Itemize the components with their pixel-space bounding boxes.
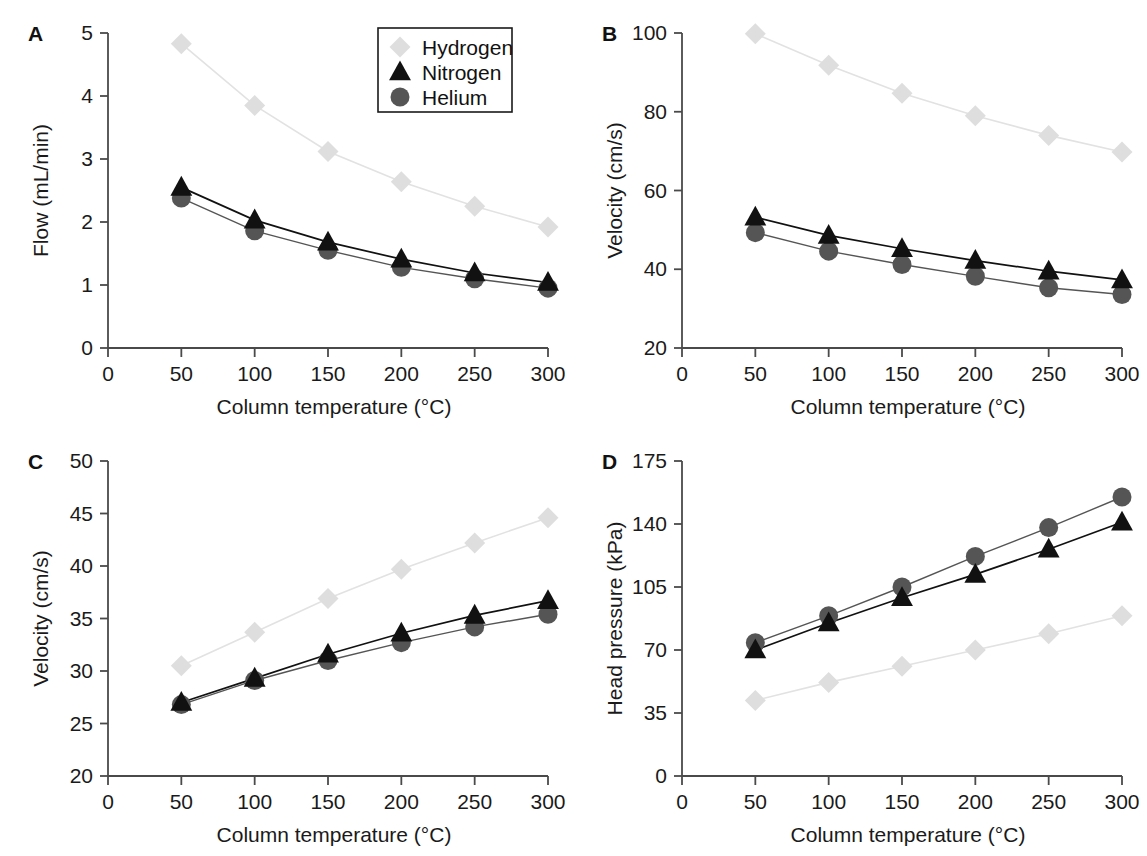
data-point-hydrogen	[171, 655, 192, 676]
x-tick-label: 150	[310, 790, 345, 813]
x-tick-label: 200	[384, 362, 419, 385]
series-line-nitrogen	[181, 187, 548, 282]
y-tick-label: 140	[632, 512, 667, 535]
y-tick-label: 1	[81, 273, 93, 296]
data-point-hydrogen	[965, 105, 986, 126]
y-axis-title: Velocity (cm/s)	[603, 122, 626, 259]
y-tick-label: 60	[644, 179, 667, 202]
panel-letter: B	[602, 22, 617, 45]
y-tick-label: 50	[70, 449, 93, 472]
data-point-nitrogen	[244, 209, 266, 229]
legend-label-nitrogen: Nitrogen	[422, 61, 501, 84]
y-tick-label: 20	[644, 336, 667, 359]
panel-a-svg: A012345050100150200250300Column temperat…	[0, 0, 573, 428]
x-tick-label: 50	[170, 790, 193, 813]
y-axis-title: Velocity (cm/s)	[29, 550, 52, 687]
data-point-nitrogen	[1111, 511, 1133, 531]
y-tick-label: 80	[644, 100, 667, 123]
x-tick-label: 250	[457, 790, 492, 813]
y-tick-label: 40	[644, 257, 667, 280]
series-line-hydrogen	[755, 616, 1122, 701]
y-axis-title: Head pressure (kPa)	[603, 522, 626, 716]
x-tick-label: 100	[237, 790, 272, 813]
x-tick-label: 200	[958, 362, 993, 385]
x-tick-label: 50	[170, 362, 193, 385]
panel-d-svg: D03570105140175050100150200250300Column …	[574, 428, 1147, 856]
x-tick-label: 300	[1104, 790, 1139, 813]
series-line-helium	[755, 497, 1122, 643]
x-tick-label: 200	[958, 790, 993, 813]
x-tick-label: 150	[884, 362, 919, 385]
y-tick-label: 0	[81, 336, 93, 359]
data-point-helium	[746, 223, 765, 242]
data-point-helium	[1039, 518, 1058, 537]
x-tick-label: 0	[676, 790, 688, 813]
data-point-nitrogen	[1038, 538, 1060, 558]
legend-label-helium: Helium	[422, 86, 487, 109]
figure-container: A012345050100150200250300Column temperat…	[0, 0, 1147, 856]
y-tick-label: 3	[81, 147, 93, 170]
data-point-hydrogen	[538, 507, 559, 528]
x-axis-title: Column temperature (°C)	[217, 395, 452, 418]
x-tick-label: 250	[457, 362, 492, 385]
x-tick-label: 50	[744, 362, 767, 385]
y-tick-label: 4	[81, 84, 93, 107]
y-tick-label: 100	[632, 21, 667, 44]
data-point-hydrogen	[818, 672, 839, 693]
chart-panel-b: B20406080100050100150200250300Column tem…	[574, 0, 1147, 428]
legend-label-hydrogen: Hydrogen	[422, 36, 513, 59]
data-point-hydrogen	[318, 588, 339, 609]
chart-panel-d: D03570105140175050100150200250300Column …	[574, 428, 1147, 856]
y-tick-label: 40	[70, 554, 93, 577]
legend-marker-helium	[391, 88, 410, 107]
panel-c-svg: C20253035404550050100150200250300Column …	[0, 428, 573, 856]
data-point-helium	[893, 255, 912, 274]
x-tick-label: 100	[811, 790, 846, 813]
y-tick-label: 5	[81, 21, 93, 44]
series-line-helium	[181, 614, 548, 704]
x-tick-label: 150	[884, 790, 919, 813]
x-tick-label: 50	[744, 790, 767, 813]
data-point-helium	[966, 267, 985, 286]
y-tick-label: 30	[70, 659, 93, 682]
data-point-helium	[1113, 488, 1132, 507]
y-axis-title: Flow (mL/min)	[29, 124, 52, 257]
data-point-hydrogen	[1112, 141, 1133, 162]
data-point-hydrogen	[892, 656, 913, 677]
data-point-hydrogen	[244, 622, 265, 643]
data-point-hydrogen	[391, 171, 412, 192]
y-tick-label: 70	[644, 638, 667, 661]
data-point-nitrogen	[744, 206, 766, 226]
data-point-helium	[1039, 278, 1058, 297]
y-tick-label: 20	[70, 764, 93, 787]
data-point-hydrogen	[464, 532, 485, 553]
data-point-hydrogen	[818, 55, 839, 76]
x-tick-label: 100	[811, 362, 846, 385]
data-point-hydrogen	[745, 23, 766, 44]
y-tick-label: 35	[644, 701, 667, 724]
y-tick-label: 0	[655, 764, 667, 787]
data-point-nitrogen	[964, 563, 986, 583]
x-tick-label: 300	[1104, 362, 1139, 385]
x-tick-label: 300	[530, 362, 565, 385]
x-tick-label: 0	[102, 790, 114, 813]
x-tick-label: 0	[102, 362, 114, 385]
series-line-hydrogen	[755, 34, 1122, 152]
data-point-hydrogen	[171, 33, 192, 54]
data-point-nitrogen	[537, 589, 559, 609]
data-point-nitrogen	[170, 176, 192, 196]
y-tick-label: 105	[632, 575, 667, 598]
x-tick-label: 250	[1031, 362, 1066, 385]
data-point-hydrogen	[892, 83, 913, 104]
x-tick-label: 0	[676, 362, 688, 385]
x-tick-label: 100	[237, 362, 272, 385]
x-tick-label: 250	[1031, 790, 1066, 813]
x-axis-title: Column temperature (°C)	[791, 395, 1026, 418]
data-point-hydrogen	[391, 559, 412, 580]
data-point-helium	[819, 242, 838, 261]
y-tick-label: 2	[81, 210, 93, 233]
series-line-nitrogen	[755, 522, 1122, 650]
data-point-hydrogen	[1038, 623, 1059, 644]
data-point-hydrogen	[1038, 125, 1059, 146]
x-tick-label: 150	[310, 362, 345, 385]
